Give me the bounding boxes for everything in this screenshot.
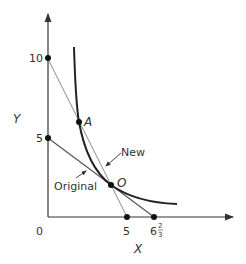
y-tick-10: 10 [29, 52, 43, 65]
new-label: New [121, 146, 145, 159]
point-o [108, 182, 114, 188]
x-tick-6-num: 2 [158, 222, 162, 230]
x-axis-label: X [133, 242, 143, 256]
original-label: Original [54, 180, 97, 193]
original-arrow [76, 171, 86, 178]
y-axis-label: Y [13, 112, 22, 126]
point-o-label: O [117, 176, 126, 190]
origin-label: 0 [36, 225, 43, 238]
point-a-label: A [83, 115, 92, 129]
new-budget-line [48, 59, 127, 217]
x-tick-6-whole: 6 [150, 225, 157, 238]
point-y10 [45, 55, 51, 61]
indifference-curve-chart: Y X 0 10 5 5 6 2 3 A O New Original [0, 0, 246, 264]
point-y5 [45, 135, 51, 141]
new-arrow [106, 153, 121, 166]
x-tick-6-den: 3 [158, 231, 162, 239]
point-a [76, 119, 82, 125]
point-x6-2-3 [151, 214, 157, 220]
x-tick-5: 5 [123, 225, 130, 238]
point-x5 [124, 214, 130, 220]
y-tick-5: 5 [36, 132, 43, 145]
